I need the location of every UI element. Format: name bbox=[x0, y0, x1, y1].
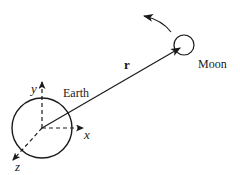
earth-label: Earth bbox=[63, 86, 89, 100]
moon-label: Moon bbox=[198, 57, 227, 71]
moon-circle bbox=[174, 35, 194, 55]
y-axis-label: y bbox=[29, 81, 37, 96]
earth-moon-diagram: y Earth x z r Moon bbox=[0, 0, 240, 175]
vector-r-label: r bbox=[124, 57, 130, 72]
x-axis-label: x bbox=[83, 127, 90, 142]
orbit-direction-arrow-icon bbox=[144, 16, 171, 32]
z-axis-label: z bbox=[14, 159, 20, 174]
